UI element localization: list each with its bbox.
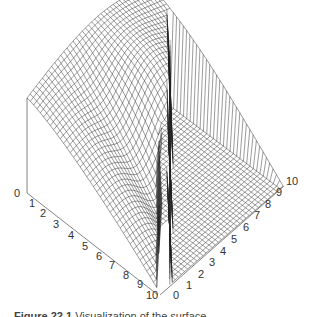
- left-axis-tick-1: 1: [29, 198, 35, 209]
- right-axis-tick-10: 10: [286, 176, 298, 187]
- left-axis-tick-8: 8: [123, 270, 129, 281]
- left-axis-tick-7: 7: [109, 260, 115, 271]
- right-axis-tick-0: 0: [173, 290, 179, 301]
- caption-prefix: Figure 22.1: [14, 310, 72, 317]
- left-axis-tick-10: 10: [146, 290, 158, 301]
- right-axis-tick-3: 3: [209, 257, 215, 268]
- left-axis-tick-5: 5: [82, 241, 88, 252]
- surface-plot-figure: 0 1 2 3 4 5 6 7 8 9 10 0 1 2 3 4 5 6 7 8…: [0, 0, 311, 317]
- left-axis-tick-6: 6: [96, 251, 102, 262]
- left-axis-tick-3: 3: [53, 219, 59, 230]
- right-axis-tick-9: 9: [276, 187, 282, 198]
- right-axis-tick-8: 8: [265, 199, 271, 210]
- right-axis-tick-2: 2: [198, 269, 204, 280]
- figure-caption: Figure 22.1 Visualization of the surface: [14, 310, 206, 317]
- right-axis-tick-1: 1: [186, 280, 192, 291]
- right-axis-tick-4: 4: [220, 246, 226, 257]
- caption-text: Visualization of the surface: [75, 310, 206, 317]
- right-axis-tick-5: 5: [231, 234, 237, 245]
- z-axis-tick-0: 0: [14, 188, 20, 199]
- surface-mesh: [0, 0, 311, 317]
- mesh-lines: [27, 0, 283, 288]
- right-axis-tick-6: 6: [243, 222, 249, 233]
- left-axis-tick-2: 2: [40, 208, 46, 219]
- left-axis-tick-4: 4: [68, 230, 74, 241]
- left-axis-tick-9: 9: [137, 279, 143, 290]
- right-axis-tick-7: 7: [254, 210, 260, 221]
